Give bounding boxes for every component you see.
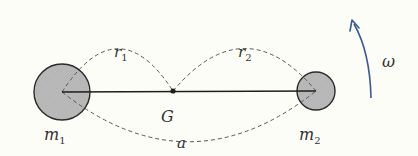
label-G: G	[161, 107, 174, 126]
label-m1: m1	[44, 125, 66, 146]
rotation-arrow-icon	[354, 24, 371, 98]
label-a: a	[177, 134, 186, 152]
connecting-line	[62, 91, 316, 92]
a-arc	[62, 91, 316, 142]
label-omega: ω	[382, 52, 395, 71]
label-r2: r2	[238, 43, 252, 63]
two-body-diagram: r1 r2 G a m1 m2 ω	[0, 0, 418, 156]
label-m2: m2	[299, 125, 321, 146]
centre-of-mass-point	[170, 88, 175, 93]
label-r1: r1	[114, 43, 128, 63]
